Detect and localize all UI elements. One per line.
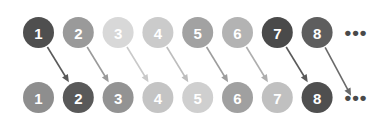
arrow-top-3-to-bottom-4 [127,47,149,82]
diagram-canvas: 12345678 12345678 ••• ••• [0,0,387,123]
bottom-row-node-2[interactable]: 2 [63,82,94,113]
arrow-top-1-to-bottom-2 [47,47,69,82]
arrow-top-2-to-bottom-3 [87,47,109,82]
bottom-row-node-8[interactable]: 8 [302,82,333,113]
bottom-row-node-circle-5 [182,82,213,113]
top-row-node-circle-5 [182,17,213,48]
top-row-node-circle-3 [103,17,134,48]
diagram-svg: 12345678 12345678 ••• ••• [0,0,387,123]
top-row-node-7[interactable]: 7 [262,17,293,48]
top-row-node-circle-1 [23,17,54,48]
arrow-shaft [325,47,348,90]
arrow-shaft [286,47,305,77]
top-row-node-circle-2 [63,17,94,48]
bottom-row-node-7[interactable]: 7 [262,82,293,113]
top-row-node-circle-7 [262,17,293,48]
bottom-row-ellipsis: ••• [345,87,368,108]
top-row-node-2[interactable]: 2 [63,17,94,48]
arrow-shaft [246,47,265,77]
arrow-top-6-to-bottom-7 [246,47,268,82]
bottom-row-node-3[interactable]: 3 [103,82,134,113]
top-row-node-circle-4 [142,17,173,48]
top-row-node-4[interactable]: 4 [142,17,173,48]
top-row-node-circle-6 [222,17,253,48]
bottom-row-node-1[interactable]: 1 [23,82,54,113]
arrow-top-5-to-bottom-6 [207,47,229,82]
arrow-shaft [87,47,106,77]
bottom-row-node-circle-8 [302,82,333,113]
bottom-row-node-circle-6 [222,82,253,113]
arrow-shaft [207,47,226,77]
top-row-node-1[interactable]: 1 [23,17,54,48]
bottom-row-node-circle-4 [142,82,173,113]
top-row-node-5[interactable]: 5 [182,17,213,48]
bottom-row-node-circle-3 [103,82,134,113]
top-row-node-6[interactable]: 6 [222,17,253,48]
bottom-row-node-4[interactable]: 4 [142,82,173,113]
top-row-node-8[interactable]: 8 [302,17,333,48]
top-row-node-circle-8 [302,17,333,48]
top-row-ellipsis: ••• [345,22,368,43]
bottom-row-node-circle-7 [262,82,293,113]
arrow-shaft [127,47,146,77]
arrow-top-7-to-bottom-8 [286,47,308,82]
bottom-row-node-6[interactable]: 6 [222,82,253,113]
arrow-shaft [47,47,66,77]
bottom-row-node-5[interactable]: 5 [182,82,213,113]
bottom-row-node-circle-2 [63,82,94,113]
top-row-node-3[interactable]: 3 [103,17,134,48]
bottom-row-layer: 12345678 [23,82,333,113]
top-row-layer: 12345678 [23,17,333,48]
bottom-row-node-circle-1 [23,82,54,113]
arrow-top-4-to-bottom-5 [167,47,189,82]
arrow-shaft [167,47,186,77]
